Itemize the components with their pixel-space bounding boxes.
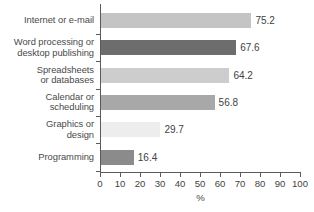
category-label: Spreadsheetsor databases bbox=[0, 65, 94, 86]
bar bbox=[101, 150, 134, 165]
bar-value-label: 16.4 bbox=[138, 150, 157, 165]
bar-value-label: 29.7 bbox=[164, 122, 183, 137]
bar bbox=[101, 122, 160, 137]
x-axis-tick bbox=[240, 172, 241, 177]
x-axis-title: % bbox=[100, 192, 301, 203]
category-label-line: scheduling bbox=[0, 102, 94, 113]
x-axis-tick-label: 80 bbox=[255, 178, 266, 189]
x-axis-tick bbox=[140, 172, 141, 177]
category-label: Programming bbox=[0, 152, 94, 163]
x-axis-tick bbox=[220, 172, 221, 177]
category-label-line: Internet or e-mail bbox=[0, 15, 94, 26]
category-label: Internet or e-mail bbox=[0, 15, 94, 26]
y-axis-tick bbox=[96, 116, 101, 117]
x-axis-tick bbox=[260, 172, 261, 177]
x-axis-tick-label: 10 bbox=[115, 178, 126, 189]
category-label-line: desktop publishing bbox=[0, 48, 94, 59]
y-axis-tick bbox=[96, 61, 101, 62]
x-axis-tick-label: 60 bbox=[215, 178, 226, 189]
y-axis-tick bbox=[96, 89, 101, 90]
x-axis-tick-label: 70 bbox=[235, 178, 246, 189]
category-axis-labels: Internet or e-mailWord processing ordesk… bbox=[0, 0, 97, 172]
x-axis-tick-label: 50 bbox=[195, 178, 206, 189]
x-axis-tick-label: 30 bbox=[155, 178, 166, 189]
x-axis-tick bbox=[280, 172, 281, 177]
x-axis-tick-label: 90 bbox=[275, 178, 286, 189]
y-axis-tick bbox=[96, 143, 101, 144]
x-axis-tick bbox=[200, 172, 201, 177]
y-axis-tick bbox=[96, 34, 101, 35]
bar bbox=[101, 68, 229, 83]
bar bbox=[101, 13, 251, 28]
category-label-line: Programming bbox=[0, 152, 94, 163]
category-label-line: or databases bbox=[0, 75, 94, 86]
bar-value-label: 56.8 bbox=[219, 95, 238, 110]
category-label: Word processing ordesktop publishing bbox=[0, 37, 94, 58]
bar-value-label: 67.6 bbox=[240, 40, 259, 55]
x-axis-tick bbox=[100, 172, 101, 177]
category-label-line: design bbox=[0, 130, 94, 141]
bar-value-label: 64.2 bbox=[233, 68, 252, 83]
x-axis-tick bbox=[300, 172, 301, 177]
category-label: Graphics ordesign bbox=[0, 119, 94, 140]
x-axis-tick-label: 20 bbox=[135, 178, 146, 189]
bar bbox=[101, 40, 236, 55]
x-axis-tick-label: 0 bbox=[97, 178, 102, 189]
x-axis-tick bbox=[180, 172, 181, 177]
category-label: Calendar orscheduling bbox=[0, 92, 94, 113]
plot-area: 75.267.664.256.829.716.4 bbox=[100, 8, 300, 172]
bar bbox=[101, 95, 215, 110]
x-axis-tick bbox=[120, 172, 121, 177]
x-axis: % 0102030405060708090100 bbox=[100, 172, 301, 212]
bar-value-label: 75.2 bbox=[255, 13, 274, 28]
x-axis-tick bbox=[160, 172, 161, 177]
x-axis-tick-label: 40 bbox=[175, 178, 186, 189]
bar-chart: Internet or e-mailWord processing ordesk… bbox=[0, 0, 314, 212]
x-axis-tick-label: 100 bbox=[292, 178, 308, 189]
